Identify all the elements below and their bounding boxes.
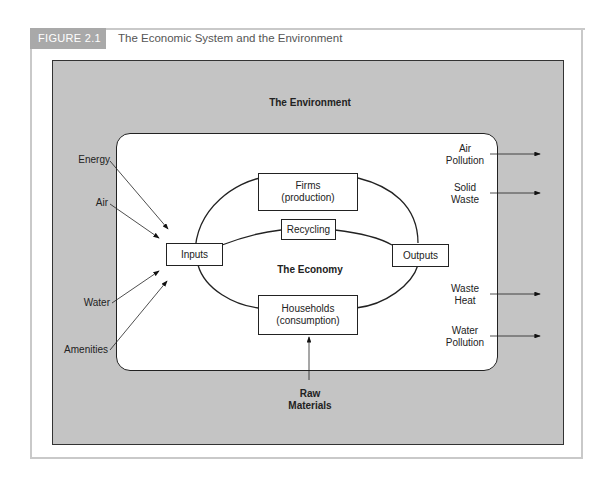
- recycling-node: Recycling: [281, 219, 336, 240]
- firms-label: Firms: [296, 180, 321, 192]
- outflow-waste-heat: WasteHeat: [440, 283, 490, 307]
- inflow-water: Water: [66, 297, 110, 309]
- economy-label: The Economy: [260, 264, 360, 276]
- outflow-solid-waste: SolidWaste: [440, 182, 490, 206]
- inflow-energy: Energy: [70, 154, 110, 166]
- outflow-air-pollution: AirPollution: [440, 143, 490, 167]
- inflow-air: Air: [70, 197, 108, 209]
- inflow-amenities: Amenities: [58, 344, 108, 356]
- households-node: Households (consumption): [258, 295, 358, 335]
- households-sublabel: (consumption): [276, 315, 339, 327]
- households-label: Households: [282, 303, 335, 315]
- raw-materials-label: RawMaterials: [270, 388, 350, 412]
- outputs-node: Outputs: [392, 244, 449, 267]
- inputs-node: Inputs: [166, 243, 223, 266]
- firms-node: Firms (production): [258, 173, 358, 211]
- firms-sublabel: (production): [281, 192, 334, 204]
- outflow-water-pollution: WaterPollution: [440, 325, 490, 349]
